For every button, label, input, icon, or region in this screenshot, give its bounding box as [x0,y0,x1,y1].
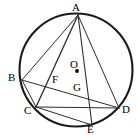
segment-layer [22,15,119,125]
geometry-canvas [0,0,138,136]
vertex-label-F: F [52,74,58,85]
segment-CD [36,107,119,108]
vertex-label-E: E [87,124,94,135]
geometry-figure: A B C D E F G O [0,0,138,136]
center-label-O: O [70,59,78,70]
vertex-label-G: G [73,82,81,93]
segment-AB [22,15,78,80]
vertex-label-A: A [72,2,80,13]
vertex-label-B: B [8,72,15,83]
vertex-label-C: C [24,105,31,116]
vertex-label-D: D [122,104,130,115]
segment-BD [22,80,119,108]
